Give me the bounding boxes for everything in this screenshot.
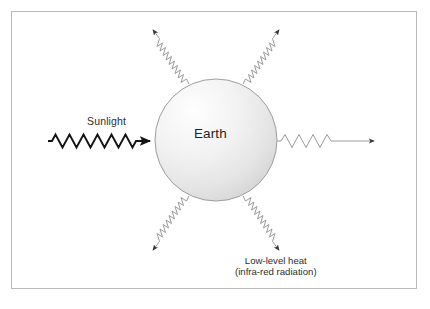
sunlight-wave-arrow [48, 135, 150, 148]
diagram-graphics [0, 0, 430, 309]
sunlight-label: Sunlight [87, 115, 126, 127]
low-level-heat-caption: Low-level heat (infra-red radiation) [235, 255, 317, 278]
infrared-wave-down-left-path [153, 196, 189, 250]
infrared-wave-right-path [277, 135, 374, 148]
infrared-wave-up-left-path [153, 30, 189, 84]
infrared-wave-down-right-path [243, 196, 279, 250]
caption-line-2: (infra-red radiation) [235, 266, 317, 277]
caption-line-1: Low-level heat [235, 255, 317, 266]
infrared-wave-up-right-path [243, 30, 279, 84]
infrared-wave-right [277, 135, 374, 148]
sunlight-wave-path [48, 135, 150, 148]
infrared-wave-down-right [243, 196, 279, 250]
infrared-wave-up-left [153, 30, 189, 84]
diagram-canvas: Sunlight Earth Low-level heat (infra-red… [0, 0, 430, 309]
infrared-wave-down-left [153, 196, 189, 250]
earth-label: Earth [194, 126, 227, 142]
infrared-wave-up-right [243, 30, 279, 84]
